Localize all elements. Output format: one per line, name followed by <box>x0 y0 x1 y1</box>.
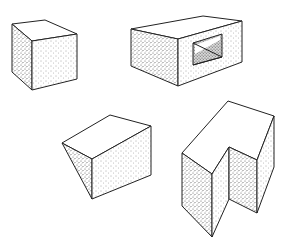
blocks-figure <box>0 0 289 252</box>
block-with-window <box>131 16 242 86</box>
block2-left-face <box>131 29 178 86</box>
wedge-prism <box>62 115 151 199</box>
rectangular-block <box>12 20 77 90</box>
block1-front-face <box>32 34 77 90</box>
notched-block <box>182 101 274 237</box>
